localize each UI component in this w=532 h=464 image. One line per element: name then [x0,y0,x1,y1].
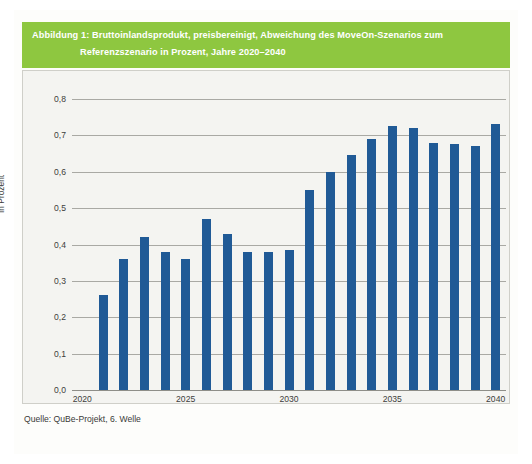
x-tick-label: 2020 [73,394,92,404]
y-tick-label: 0,0 [40,385,66,395]
figure-title-line-1: Abbildung 1: Bruttoinlandsprodukt, preis… [32,27,500,44]
x-tick-label: 2035 [383,394,402,404]
gridline [72,208,506,209]
gridline [72,245,506,246]
gridline [72,390,506,391]
bar [491,124,500,390]
bar [388,126,397,390]
y-tick-label: 0,5 [40,203,66,213]
bar [305,190,314,390]
bar [347,155,356,390]
figure-title-band: Abbildung 1: Bruttoinlandsprodukt, preis… [22,22,510,68]
bar [450,144,459,390]
y-axis-title: In Prozent [0,175,6,213]
bar [409,128,418,390]
bar [326,172,335,390]
bar [243,252,252,390]
x-tick-label: 2030 [279,394,298,404]
bar [285,250,294,390]
y-axis-tick-labels: 0,00,10,20,30,40,50,60,70,8 [38,99,66,390]
gridline [72,172,506,173]
bar [264,252,273,390]
bar [471,146,480,390]
x-tick-label: 2025 [176,394,195,404]
gridline [72,135,506,136]
figure-container: Abbildung 1: Bruttoinlandsprodukt, preis… [0,0,532,464]
bar [140,237,149,390]
y-tick-label: 0,6 [40,167,66,177]
x-tick-label: 2040 [486,394,505,404]
y-tick-label: 0,2 [40,312,66,322]
y-tick-label: 0,1 [40,349,66,359]
y-tick-label: 0,3 [40,276,66,286]
plot-area [72,99,506,390]
y-tick-label: 0,7 [40,130,66,140]
bar [202,219,211,390]
bar [429,143,438,390]
figure-title-line-2: Referenzszenario in Prozent, Jahre 2020–… [32,44,500,61]
bar [223,234,232,390]
y-tick-label: 0,4 [40,240,66,250]
source-note: Quelle: QuBe-Projekt, 6. Welle [24,414,141,424]
bar [367,139,376,390]
y-tick-label: 0,8 [40,94,66,104]
bar [161,252,170,390]
bar [99,295,108,390]
bar [181,259,190,390]
gridline [72,99,506,100]
bar [119,259,128,390]
